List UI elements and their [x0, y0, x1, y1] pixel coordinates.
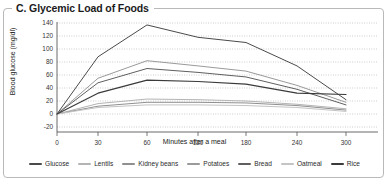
- svg-text:20: 20: [46, 97, 54, 104]
- y-tick-labels: 140120100806040200-20: [42, 19, 53, 130]
- svg-text:40: 40: [46, 84, 54, 91]
- glycemic-load-figure: C. Glycemic Load of Foods 14012010080604…: [0, 0, 389, 186]
- svg-text:100: 100: [42, 45, 53, 52]
- gridlines: [57, 23, 378, 127]
- plot-area: 140120100806040200-20 03060120180240300: [0, 14, 389, 146]
- svg-text:-20: -20: [44, 123, 54, 130]
- legend-label: Rice: [347, 160, 360, 168]
- legend-item-potatoes: Potatoes: [187, 160, 229, 168]
- svg-text:140: 140: [42, 19, 53, 26]
- y-axis-title: Blood glucose (mg/dl): [9, 17, 16, 107]
- legend-swatch-icon: [281, 163, 294, 165]
- legend-item-rice: Rice: [331, 160, 360, 168]
- data-series: [57, 25, 346, 114]
- legend-label: Glucose: [45, 160, 69, 168]
- svg-text:0: 0: [49, 110, 53, 117]
- svg-text:60: 60: [46, 71, 54, 78]
- x-axis-title: Minutes after a meal: [0, 138, 389, 145]
- legend-swatch-icon: [29, 163, 42, 165]
- legend-swatch-icon: [331, 163, 344, 166]
- x-tick-marks: [57, 132, 346, 136]
- svg-text:120: 120: [42, 32, 53, 39]
- legend-swatch-icon: [122, 163, 135, 165]
- svg-text:80: 80: [46, 58, 54, 65]
- legend-swatch-icon: [187, 163, 200, 165]
- legend-item-lentils: Lentils: [78, 160, 113, 168]
- series-line-rice: [57, 80, 346, 114]
- line-chart: 140120100806040200-20 03060120180240300: [0, 14, 389, 146]
- panel-title: C. Glycemic Load of Foods: [12, 1, 154, 15]
- legend-label: Lentils: [94, 160, 113, 168]
- chart-legend: GlucoseLentilsKidney beansPotatoesBreadO…: [0, 156, 389, 172]
- legend-item-glucose: Glucose: [29, 160, 69, 168]
- legend-item-oatmeal: Oatmeal: [281, 160, 322, 168]
- legend-item-kidney-beans: Kidney beans: [122, 160, 178, 168]
- legend-label: Kidney beans: [138, 160, 178, 168]
- legend-swatch-icon: [238, 163, 251, 165]
- axis-lines: [57, 22, 378, 132]
- legend-swatch-icon: [78, 163, 91, 165]
- series-line-glucose: [57, 25, 346, 114]
- legend-label: Bread: [254, 160, 272, 168]
- legend-item-bread: Bread: [238, 160, 272, 168]
- legend-label: Potatoes: [203, 160, 229, 168]
- legend-label: Oatmeal: [297, 160, 322, 168]
